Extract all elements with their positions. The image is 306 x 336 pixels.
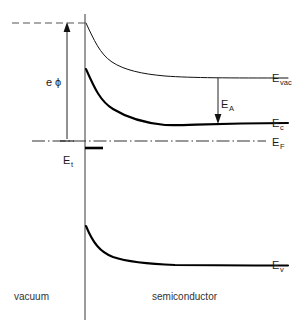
diagram-canvas: e ϕ E vac E c E F E v [0,0,306,336]
level-label-fermi: E F [272,136,285,151]
level-label-electron-affinity: E A [221,98,234,113]
trap-level-label-subscript: t [71,160,74,169]
level-label-conduction: E c [272,117,284,132]
work-function-arrow [60,22,74,141]
vacuum-level-curve [86,23,288,78]
region-label-vacuum: vacuum [14,291,49,302]
electron-affinity-label-E: E [221,98,228,110]
fermi-level-label-E: E [272,136,279,148]
conduction-band-label-E: E [272,117,279,129]
level-label-vacuum: E vac [272,72,292,87]
level-label-valence: E v [272,259,284,274]
vacuum-level-label-subscript: vac [280,78,292,87]
valence-band-label-subscript: v [280,265,284,274]
conduction-band-label-subscript: c [280,123,284,132]
valence-band-label-E: E [272,259,279,271]
electron-affinity-label-subscript: A [229,104,234,113]
energy-band-diagram-figure: e ϕ E vac E c E F E v [0,0,306,336]
valence-band-curve [86,226,288,266]
fermi-level-label-subscript: F [280,142,285,151]
region-label-semiconductor: semiconductor [152,291,218,302]
level-label-trap: E t [63,154,74,169]
vacuum-level-label-E: E [272,72,279,84]
work-function-phi-symbol: ϕ [55,76,61,88]
work-function-label: e [46,76,52,88]
electron-affinity-arrowhead-down [215,114,222,124]
trap-level-label-E: E [63,154,70,166]
